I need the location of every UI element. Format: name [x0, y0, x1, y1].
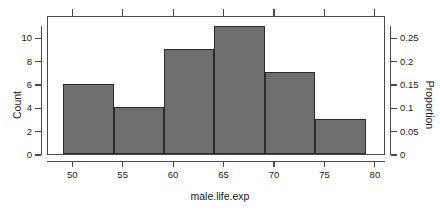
axis-tick — [35, 131, 41, 132]
histogram-bar — [315, 119, 365, 154]
axis-tick — [35, 154, 41, 155]
axis-tick-label: 0.05 — [400, 127, 419, 137]
axis-tick — [391, 61, 397, 62]
axis-tick — [35, 84, 41, 85]
axis-tick — [72, 9, 73, 16]
axis-tick — [35, 38, 41, 39]
axis-tick — [122, 161, 123, 167]
plot-area — [47, 16, 385, 155]
histogram-bar — [214, 26, 264, 154]
axis-tick-label: 10 — [2, 33, 32, 43]
histogram-bar — [63, 84, 113, 154]
histogram-figure: 0246810 00.050.10.150.20.25 505560657075… — [0, 0, 440, 210]
axis-tick — [374, 161, 375, 167]
axis-tick-label: 65 — [218, 170, 229, 180]
axis-tick-label: 80 — [370, 170, 381, 180]
axis-tick — [273, 9, 274, 16]
y-axis-left-line — [41, 26, 42, 155]
axis-tick-label: 50 — [67, 170, 78, 180]
axis-tick — [35, 108, 41, 109]
y-axis-left-title: Count — [11, 75, 23, 135]
bars-group — [48, 17, 384, 154]
histogram-bar — [164, 49, 214, 154]
axis-tick-label: 0.2 — [400, 57, 413, 67]
y-axis-right-line — [390, 26, 391, 155]
axis-tick-label: 8 — [2, 57, 32, 67]
axis-tick — [391, 84, 397, 85]
axis-tick-label: 55 — [117, 170, 128, 180]
axis-tick — [324, 161, 325, 167]
axis-tick — [223, 161, 224, 167]
axis-tick-label: 70 — [269, 170, 280, 180]
axis-tick-label: 0 — [2, 150, 32, 160]
axis-tick-label: 0.15 — [400, 80, 419, 90]
axis-tick — [374, 9, 375, 16]
axis-tick-label: 0.1 — [400, 103, 413, 113]
axis-tick — [273, 161, 274, 167]
axis-tick-label: 60 — [168, 170, 179, 180]
axis-tick-label: 75 — [319, 170, 330, 180]
x-axis-title: male.life.exp — [0, 190, 440, 202]
axis-tick — [391, 108, 397, 109]
axis-tick — [391, 38, 397, 39]
histogram-bar — [265, 72, 315, 154]
x-axis-bottom-line — [47, 161, 385, 162]
axis-tick — [391, 131, 397, 132]
axis-tick-label: 0.25 — [400, 33, 419, 43]
axis-tick — [72, 161, 73, 167]
axis-tick — [122, 9, 123, 16]
axis-tick — [324, 9, 325, 16]
y-axis-right-title: Proportion — [424, 65, 436, 145]
histogram-bar — [114, 107, 164, 154]
axis-tick — [173, 9, 174, 16]
axis-tick — [35, 61, 41, 62]
axis-tick — [173, 161, 174, 167]
axis-tick — [223, 9, 224, 16]
axis-tick-label: 0 — [400, 150, 405, 160]
axis-tick — [391, 154, 397, 155]
